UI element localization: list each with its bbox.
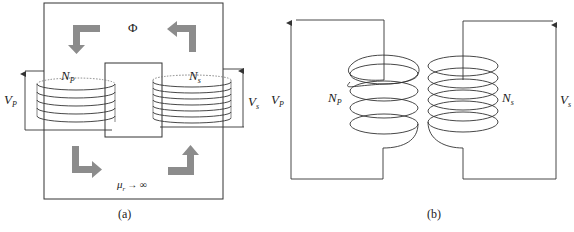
primary-circuit-wire <box>291 148 383 179</box>
flux-arrow-icon <box>72 146 102 178</box>
secondary-circuit-wire <box>463 21 553 80</box>
flux-arrow-icon <box>167 21 196 52</box>
permeability-label: μr→ ∞ <box>116 178 147 193</box>
primary-turns-label: NP <box>327 90 342 107</box>
primary-voltage-label: VP <box>271 92 284 109</box>
flux-arrow-icon <box>168 145 199 175</box>
primary-winding <box>37 78 115 122</box>
primary-voltage-label: VP <box>4 92 17 109</box>
secondary-turns-label: Ns <box>188 68 201 85</box>
caption-a: (a) <box>118 207 131 221</box>
transformer-diagram: Φ μr→ ∞ VP NP <box>0 0 574 232</box>
primary-turns-label: NP <box>60 68 75 85</box>
flux-label: Φ <box>128 20 138 35</box>
flux-arrow-icon <box>68 25 100 54</box>
secondary-voltage-label: Vs <box>560 92 571 109</box>
secondary-voltage-label: Vs <box>248 94 259 111</box>
panel-a: Φ μr→ ∞ VP NP <box>4 3 259 221</box>
secondary-turns-label: Ns <box>501 90 514 107</box>
secondary-circuit-wire <box>463 148 556 179</box>
caption-b: (b) <box>427 207 441 221</box>
primary-coil <box>348 55 420 148</box>
primary-circuit-wire <box>296 20 384 80</box>
panel-b: NP VP Ns Vs (b) <box>271 20 571 221</box>
